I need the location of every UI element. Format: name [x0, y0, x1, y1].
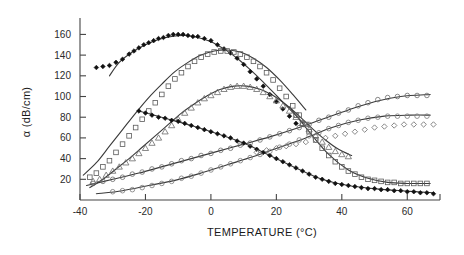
data-point — [133, 125, 138, 130]
data-point — [97, 176, 103, 181]
data-series-series-5-open-square-descending — [294, 113, 430, 186]
data-point — [101, 64, 106, 69]
y-tick-label: 160 — [54, 29, 71, 40]
data-point — [215, 131, 220, 136]
data-point — [431, 122, 436, 127]
data-point — [107, 63, 112, 68]
data-point — [287, 163, 292, 168]
data-point — [333, 181, 338, 186]
data-point — [362, 127, 367, 132]
data-point — [136, 150, 142, 155]
data-point — [179, 70, 184, 75]
data-point — [264, 70, 269, 75]
data-point — [392, 188, 397, 193]
points-layer — [88, 32, 437, 196]
data-point — [189, 123, 194, 128]
data-point — [261, 84, 266, 89]
data-point — [307, 172, 312, 177]
data-point — [294, 166, 299, 171]
chart-canvas: -40-20020406020406080100120140160 TEMPER… — [0, 0, 464, 255]
y-tick-label: 100 — [54, 91, 71, 102]
y-tick-label: 60 — [60, 132, 72, 143]
data-point — [366, 186, 371, 191]
y-axis-title: α (dB/cm) — [20, 87, 32, 138]
data-point — [181, 32, 186, 37]
data-point — [412, 189, 417, 194]
data-point — [382, 124, 387, 129]
data-point — [258, 64, 263, 69]
data-point — [202, 127, 207, 132]
y-tick-label: 20 — [60, 174, 72, 185]
data-point — [182, 121, 187, 126]
data-point — [196, 125, 201, 130]
data-point — [209, 129, 214, 134]
data-point — [411, 122, 416, 127]
x-tick-label: -20 — [138, 206, 153, 217]
data-point — [346, 183, 351, 188]
data-point — [425, 190, 430, 195]
data-point — [405, 114, 410, 119]
data-point — [274, 156, 279, 161]
data-point — [353, 184, 358, 189]
data-point — [173, 77, 178, 82]
data-point — [405, 189, 410, 194]
data-point — [114, 150, 119, 155]
data-point — [107, 158, 112, 163]
data-point — [153, 100, 158, 105]
x-tick-label: 0 — [208, 206, 214, 217]
data-point — [140, 117, 145, 122]
data-point — [425, 114, 430, 119]
data-point — [281, 159, 286, 164]
data-point — [186, 64, 191, 69]
data-point — [94, 171, 99, 176]
data-point — [281, 107, 286, 112]
data-point — [101, 165, 106, 170]
data-point — [352, 129, 357, 134]
data-point — [163, 116, 168, 121]
data-point — [379, 187, 384, 192]
data-point — [372, 125, 377, 130]
data-point — [127, 134, 132, 139]
data-point — [303, 139, 308, 144]
tick-labels-layer: -40-20020406020406080100120140160 — [54, 29, 413, 217]
data-series-series-1-filled-diamond-peak — [94, 32, 298, 126]
data-point — [395, 114, 400, 119]
data-point — [191, 34, 196, 39]
data-point — [169, 118, 174, 123]
data-point — [421, 122, 426, 127]
data-point — [137, 109, 142, 114]
y-tick-label: 80 — [60, 112, 72, 123]
y-tick-label: 40 — [60, 153, 72, 164]
data-point — [88, 175, 93, 180]
fit-curve-series-3-open-triangle-peak — [90, 86, 352, 188]
data-point — [94, 65, 99, 70]
data-point — [222, 134, 227, 139]
data-point — [284, 94, 289, 99]
data-point — [340, 182, 345, 187]
x-tick-label: 60 — [402, 206, 414, 217]
data-series-series-8-open-diamond-plateau — [254, 122, 436, 155]
data-point — [287, 114, 292, 119]
data-point — [120, 142, 125, 147]
data-point — [401, 122, 406, 127]
y-tick-label: 140 — [54, 50, 71, 61]
figure-container: -40-20020406020406080100120140160 TEMPER… — [0, 0, 464, 255]
data-point — [248, 69, 253, 74]
data-point — [359, 185, 364, 190]
data-point — [372, 186, 377, 191]
y-tick-label: 120 — [54, 70, 71, 81]
curves-layer — [83, 35, 433, 193]
data-point — [391, 123, 396, 128]
data-point — [326, 144, 332, 149]
x-tick-label: -40 — [73, 206, 88, 217]
data-point — [277, 86, 282, 91]
fit-curve-series-6-open-circle-rising-upper — [87, 94, 431, 185]
x-tick-label: 40 — [336, 206, 348, 217]
data-point — [326, 179, 331, 184]
x-tick-label: 20 — [271, 206, 283, 217]
x-axis-title: TEMPERATURE (°C) — [207, 226, 317, 238]
data-point — [160, 92, 165, 97]
data-point — [425, 93, 430, 98]
data-point — [290, 104, 295, 109]
data-point — [294, 121, 299, 126]
